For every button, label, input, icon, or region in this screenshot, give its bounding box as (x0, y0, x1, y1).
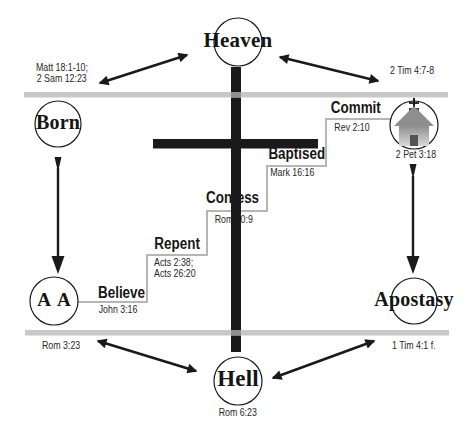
plan-of-salvation-diagram: Heaven Born A A Apostasy Hell Matt 18:1-… (0, 0, 475, 440)
step-label-text: Commit (331, 100, 381, 117)
church-icon (394, 98, 434, 146)
step-label-text: Believe (98, 285, 145, 302)
fall-left-scripture: Rom 3:23 (42, 340, 88, 351)
step-commit-label: Commit (316, 100, 396, 117)
heaven-right-scripture: 2 Tim 4:7-8 (390, 65, 443, 76)
step-confess-scripture: Rom 10:9 (194, 214, 274, 225)
heaven-label: Heaven (178, 29, 298, 51)
scripture-line: John 3:16 (99, 304, 138, 315)
step-label-text: Confess (206, 190, 259, 207)
church-circle (390, 101, 438, 149)
hell-scripture: Rom 6:23 (198, 407, 278, 418)
step-baptised-scripture: Mark 16:16 (252, 167, 332, 178)
step-repent-scripture: Acts 2:38; Acts 26:20 (154, 257, 204, 278)
upper-bar-beam-crossing (231, 92, 241, 98)
scripture-line: 2 Pet 3:18 (396, 149, 436, 160)
upper-divider-bar (24, 92, 448, 98)
arrow-church-to-apostasy (407, 164, 420, 274)
scripture-line: 1 Tim 4:1 f. (392, 340, 436, 351)
heaven-left-scripture: Matt 18:1-10; 2 Sam 12:23 (28, 62, 96, 83)
step-label-text: Repent (154, 236, 200, 253)
step-commit-scripture: Rev 2:10 (312, 122, 392, 133)
lower-bar-beam-crossing (231, 330, 241, 336)
step-repent-label: Repent (137, 236, 217, 253)
hell-label: Hell (198, 367, 278, 391)
arrow-bar-to-heaven-left (100, 55, 187, 83)
scripture-line: Rom 3:23 (42, 340, 80, 351)
arrow-born-to-aa (52, 157, 65, 274)
lower-divider-bar (25, 330, 449, 336)
born-label: Born (18, 112, 98, 133)
scripture-line: 2 Tim 4:7-8 (390, 65, 434, 76)
step-confess-label: Confess (193, 190, 273, 207)
fall-right-scripture: 1 Tim 4:1 f. (392, 340, 444, 351)
scripture-line: Mark 16:16 (270, 167, 314, 178)
apostasy-label: Apostasy (354, 289, 474, 310)
arrow-heaven-to-bar-right (280, 57, 378, 81)
step-baptised-label: Baptised (257, 146, 337, 163)
step-believe-label: Believe (60, 285, 145, 302)
scripture-line: Rom 6:23 (219, 407, 257, 418)
church-scripture: 2 Pet 3:18 (376, 149, 456, 160)
step-label-text: Baptised (269, 146, 326, 163)
arrow-hell-to-bar-right (273, 341, 374, 378)
step-believe-scripture: John 3:16 (88, 304, 148, 315)
scripture-line: 2 Sam 12:23 (37, 73, 87, 84)
scripture-line: Rom 10:9 (215, 214, 253, 225)
scripture-line: Rev 2:10 (334, 122, 369, 133)
scripture-line: Acts 26:20 (154, 268, 196, 279)
arrow-bar-to-hell-left (98, 341, 196, 371)
cross-vertical-beam (231, 67, 241, 352)
salvation-staircase-line (78, 119, 391, 302)
